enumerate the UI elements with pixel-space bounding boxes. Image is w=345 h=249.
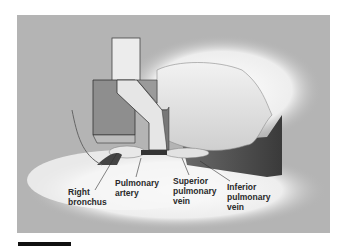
label-line: Right xyxy=(68,187,107,197)
label-line: pulmonary xyxy=(227,192,270,202)
label-line: Inferior xyxy=(227,182,270,192)
label-line: vein xyxy=(227,202,270,212)
label-line: artery xyxy=(115,188,159,198)
label-line: bronchus xyxy=(68,197,107,207)
scale-bar xyxy=(18,242,71,246)
label-line: vein xyxy=(173,196,216,206)
label-right-bronchus: Right bronchus xyxy=(68,187,107,207)
label-superior-pulmonary-vein: Superior pulmonary vein xyxy=(173,176,216,206)
label-pulmonary-artery: Pulmonary artery xyxy=(115,178,159,198)
label-line: Superior xyxy=(173,176,216,186)
label-inferior-pulmonary-vein: Inferior pulmonary vein xyxy=(227,182,270,212)
label-line: pulmonary xyxy=(173,186,216,196)
label-line: Pulmonary xyxy=(115,178,159,188)
illustration-panel: Right bronchus Pulmonary artery Superior… xyxy=(17,15,330,233)
